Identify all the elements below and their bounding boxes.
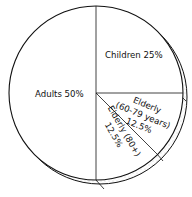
label-adults: Adults 50% bbox=[35, 89, 84, 99]
pie-chart: Children 25% Adults 50% Elderly (60-79 y… bbox=[0, 0, 192, 197]
label-children: Children 25% bbox=[105, 50, 163, 60]
